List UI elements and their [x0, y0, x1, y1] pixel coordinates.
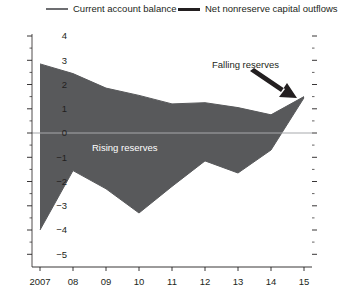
y-axis-label: 2 [43, 80, 67, 90]
y-axis-label: −1 [43, 153, 67, 163]
y-axis-right-minor-ticks [312, 48, 315, 242]
y-axis-label: 3 [43, 56, 67, 66]
y-axis-label: 1 [43, 104, 67, 114]
falling-reserves-arrow-icon [250, 68, 297, 98]
y-axis-label: 0 [43, 128, 67, 138]
area-between-series [40, 64, 304, 230]
y-axis-label: 4 [43, 31, 67, 41]
annotation-falling-reserves: Falling reserves [212, 60, 279, 70]
x-axis-label: 15 [284, 277, 324, 287]
annotation-rising-reserves: Rising reserves [92, 143, 157, 153]
y-axis-label: −2 [43, 177, 67, 187]
y-axis-label: −4 [43, 225, 67, 235]
x-axis-ticks [40, 267, 304, 271]
y-axis-label: −5 [43, 250, 67, 260]
y-axis-label: −3 [43, 201, 67, 211]
